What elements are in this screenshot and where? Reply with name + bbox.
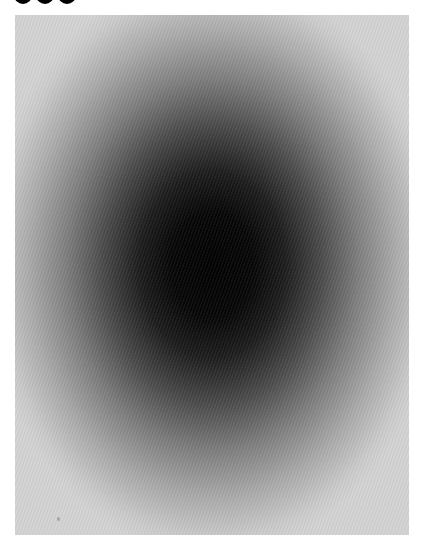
cropped-glyph bbox=[58, 0, 76, 4]
canvas-texture bbox=[15, 15, 409, 535]
cropped-title-text bbox=[14, 0, 76, 4]
cropped-glyph bbox=[36, 0, 54, 4]
cropped-glyph bbox=[14, 0, 32, 4]
paint-speck bbox=[57, 517, 60, 521]
gradient-ellipse-artwork bbox=[15, 15, 409, 535]
